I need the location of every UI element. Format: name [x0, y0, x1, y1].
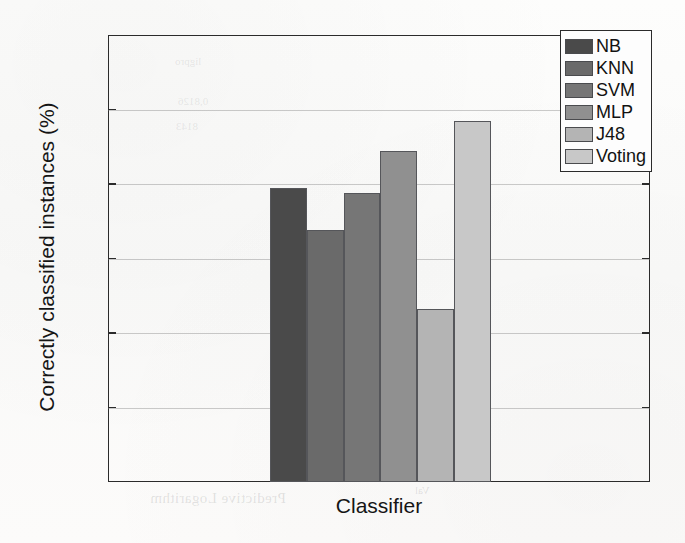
y-axis-title: Correctly classified instances (%) — [35, 47, 59, 467]
legend-item-voting[interactable]: Voting — [565, 145, 646, 167]
legend-item-mlp[interactable]: MLP — [565, 101, 646, 123]
bar-nb[interactable] — [270, 188, 307, 482]
legend-swatch-icon — [565, 83, 593, 98]
legend-item-label: J48 — [596, 125, 625, 143]
legend-item-knn[interactable]: KNN — [565, 57, 646, 79]
legend-swatch-icon — [565, 127, 593, 142]
legend-item-label: MLP — [596, 103, 633, 121]
bar-mlp[interactable] — [380, 151, 417, 482]
bar-svm[interactable] — [344, 193, 381, 482]
bar-knn[interactable] — [307, 230, 344, 482]
legend-item-label: Voting — [596, 147, 646, 165]
legend-swatch-icon — [565, 61, 593, 76]
x-axis-title: Classifier — [108, 494, 650, 518]
legend-item-label: NB — [596, 37, 621, 55]
legend-item-label: KNN — [596, 59, 634, 77]
legend: NBKNNSVMMLPJ48Voting — [560, 30, 652, 172]
legend-swatch-icon — [565, 105, 593, 120]
legend-swatch-icon — [565, 39, 593, 54]
legend-swatch-icon — [565, 149, 593, 164]
legend-item-svm[interactable]: SVM — [565, 79, 646, 101]
bar-voting[interactable] — [454, 121, 491, 482]
bar-chart-figure: 707580859095100 Correctly classified ins… — [0, 0, 685, 543]
legend-item-nb[interactable]: NB — [565, 35, 646, 57]
bar-j48[interactable] — [417, 309, 454, 482]
legend-item-label: SVM — [596, 81, 635, 99]
legend-item-j48[interactable]: J48 — [565, 123, 646, 145]
